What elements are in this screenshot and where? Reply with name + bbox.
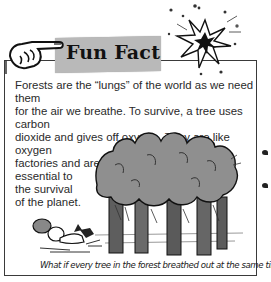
body-line: Forests are the “lungs” of the world as … — [15, 79, 255, 105]
blown-over-child-illustration — [30, 210, 105, 255]
illustration-caption: What if every tree in the forest breathe… — [40, 260, 271, 270]
margin-mark — [262, 183, 268, 188]
pointing-hand-icon — [4, 34, 66, 74]
starburst-icon — [165, 2, 245, 77]
margin-mark — [262, 150, 268, 155]
forest-illustration — [95, 125, 243, 260]
fun-fact-title: Fun Fact — [66, 41, 160, 63]
